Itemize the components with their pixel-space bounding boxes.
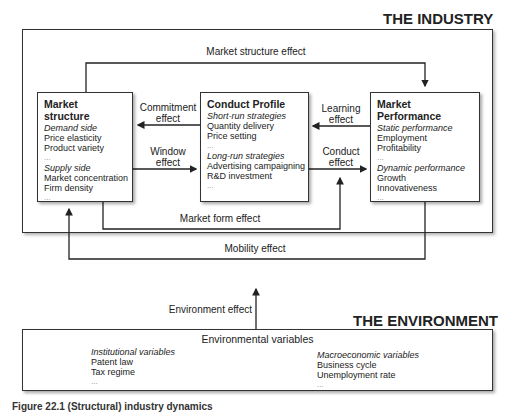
macro-heading: Macroeconomic variables bbox=[317, 350, 419, 360]
demand-ellipsis: ... bbox=[44, 153, 126, 163]
demand-side-heading: Demand side bbox=[44, 123, 126, 133]
macro-item: Unemployment rate bbox=[317, 370, 419, 380]
dynamic-item: Growth bbox=[377, 173, 473, 183]
market-structure-title: Market structure bbox=[44, 98, 126, 122]
demand-item: Price elasticity bbox=[44, 133, 126, 143]
learning-effect-label: Learning effect bbox=[312, 103, 370, 125]
supply-ellipsis: ... bbox=[44, 193, 126, 203]
conduct-effect-line2: effect bbox=[312, 157, 370, 168]
market-structure-effect-label: Market structure effect bbox=[186, 46, 326, 57]
learning-effect-line2: effect bbox=[312, 114, 370, 125]
static-item: Profitability bbox=[377, 143, 473, 153]
window-effect-label: Window effect bbox=[138, 146, 198, 168]
long-run-item: Advertising campaigning bbox=[207, 161, 302, 171]
commitment-effect-line2: effect bbox=[138, 113, 198, 124]
demand-item: Product variety bbox=[44, 143, 126, 153]
mobility-effect-label: Mobility effect bbox=[200, 243, 310, 254]
institutional-heading: Institutional variables bbox=[91, 347, 175, 357]
conduct-profile-node: Conduct Profile Short-run strategies Qua… bbox=[200, 92, 309, 202]
dynamic-ellipsis: ... bbox=[377, 193, 473, 203]
market-structure-node: Market structure Demand side Price elast… bbox=[37, 92, 133, 202]
short-run-ellipsis: ... bbox=[207, 141, 302, 151]
environment-effect-label: Environment effect bbox=[160, 304, 252, 315]
supply-side-heading: Supply side bbox=[44, 163, 126, 173]
long-run-ellipsis: ... bbox=[207, 181, 302, 191]
commitment-effect-label: Commitment effect bbox=[138, 102, 198, 124]
static-performance-heading: Static performance bbox=[377, 123, 473, 133]
institutional-item: Tax regime bbox=[91, 367, 175, 377]
conduct-effect-line1: Conduct bbox=[312, 146, 370, 157]
institutional-item: Patent law bbox=[91, 357, 175, 367]
conduct-effect-label: Conduct effect bbox=[312, 146, 370, 168]
learning-effect-line1: Learning bbox=[312, 103, 370, 114]
figure-caption: Figure 22.1 (Structural) industry dynami… bbox=[12, 401, 213, 412]
dynamic-performance-heading: Dynamic performance bbox=[377, 163, 473, 173]
market-performance-title: Market Performance bbox=[377, 98, 473, 122]
short-run-item: Price setting bbox=[207, 131, 302, 141]
macroeconomic-variables-group: Macroeconomic variables Business cycle U… bbox=[317, 350, 419, 390]
environment-box: Environmental variables Institutional va… bbox=[22, 329, 493, 391]
short-run-item: Quantity delivery bbox=[207, 121, 302, 131]
window-effect-line2: effect bbox=[138, 157, 198, 168]
supply-item: Firm density bbox=[44, 183, 126, 193]
market-form-effect-label: Market form effect bbox=[160, 213, 280, 224]
long-run-heading: Long-run strategies bbox=[207, 151, 302, 161]
window-effect-line1: Window bbox=[138, 146, 198, 157]
market-performance-node: Market Performance Static performance Em… bbox=[370, 92, 480, 202]
environment-title: THE ENVIRONMENT bbox=[353, 312, 498, 329]
supply-item: Market concentration bbox=[44, 173, 126, 183]
static-ellipsis: ... bbox=[377, 153, 473, 163]
environmental-variables-heading: Environmental variables bbox=[23, 333, 492, 345]
conduct-profile-title: Conduct Profile bbox=[207, 98, 302, 110]
long-run-item: R&D investment bbox=[207, 171, 302, 181]
short-run-heading: Short-run strategies bbox=[207, 111, 302, 121]
macro-item: Business cycle bbox=[317, 360, 419, 370]
commitment-effect-line1: Commitment bbox=[138, 102, 198, 113]
static-item: Employment bbox=[377, 133, 473, 143]
macro-ellipsis: ... bbox=[317, 380, 419, 390]
institutional-variables-group: Institutional variables Patent law Tax r… bbox=[91, 347, 175, 387]
institutional-ellipsis: ... bbox=[91, 377, 175, 387]
dynamic-item: Innovativeness bbox=[377, 183, 473, 193]
